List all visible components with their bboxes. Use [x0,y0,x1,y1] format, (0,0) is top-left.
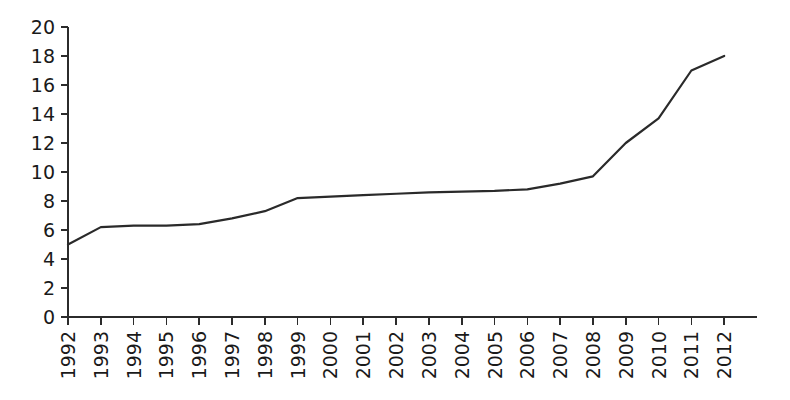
x-axis-ticks [68,317,724,325]
x-axis-tick-label: 1995 [155,331,177,379]
chart-canvas: 02468101214161820 1992199319941995199619… [0,0,790,400]
y-axis-tick-label: 2 [43,277,55,299]
x-axis-tick-label: 2011 [680,331,702,379]
data-line-series-1 [68,56,724,245]
x-axis-tick-label: 1992 [57,331,79,379]
y-axis-tick-label: 10 [31,161,55,183]
x-axis-tick-label: 2008 [582,331,604,379]
x-axis: 1992199319941995199619971998199920002001… [57,317,757,379]
y-axis-ticks [61,27,68,317]
y-axis-tick-label: 6 [43,219,55,241]
y-axis-tick-label: 18 [31,45,55,67]
x-axis-tick-label: 2006 [516,331,538,379]
line-chart: 02468101214161820 1992199319941995199619… [0,0,790,400]
x-axis-tick-label: 2002 [385,331,407,379]
y-axis-tick-label: 14 [31,103,55,125]
x-axis-tick-label: 2010 [648,331,670,379]
x-axis-tick-label: 2012 [713,331,735,379]
x-axis-tick-label: 2005 [484,331,506,379]
y-axis-tick-labels: 02468101214161820 [31,16,55,328]
x-axis-tick-label: 2001 [352,331,374,379]
y-axis-tick-label: 16 [31,74,55,96]
x-axis-tick-label: 1996 [188,331,210,379]
y-axis: 02468101214161820 [31,16,68,328]
y-axis-tick-label: 8 [43,190,55,212]
x-axis-tick-label: 1999 [287,331,309,379]
x-axis-tick-label: 2009 [615,331,637,379]
x-axis-tick-label: 2004 [451,331,473,379]
x-axis-tick-label: 2003 [418,331,440,379]
x-axis-tick-label: 1997 [221,331,243,379]
x-axis-tick-label: 1993 [90,331,112,379]
x-axis-tick-label: 1998 [254,331,276,379]
y-axis-tick-label: 4 [43,248,55,270]
y-axis-tick-label: 0 [43,306,55,328]
x-axis-tick-label: 2000 [319,331,341,379]
y-axis-tick-label: 12 [31,132,55,154]
x-axis-tick-label: 2007 [549,331,571,379]
x-axis-tick-label: 1994 [123,331,145,379]
y-axis-tick-label: 20 [31,16,55,38]
data-series-group [68,56,724,245]
x-axis-tick-labels: 1992199319941995199619971998199920002001… [57,331,735,379]
